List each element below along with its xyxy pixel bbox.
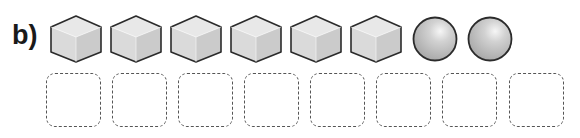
sphere-shape-1 bbox=[412, 16, 458, 62]
cube-shape-3 bbox=[170, 15, 222, 63]
cube-shape-4 bbox=[230, 15, 282, 63]
sphere-icon bbox=[467, 16, 513, 62]
cube-icon bbox=[230, 15, 282, 63]
answer-box-4[interactable] bbox=[244, 73, 299, 127]
cube-icon bbox=[170, 15, 222, 63]
sphere-icon bbox=[412, 16, 458, 62]
cube-shape-2 bbox=[110, 15, 162, 63]
answer-box-1[interactable] bbox=[46, 73, 101, 127]
cube-shape-6 bbox=[350, 15, 402, 63]
cube-icon bbox=[50, 15, 102, 63]
cube-icon bbox=[350, 15, 402, 63]
answer-box-7[interactable] bbox=[442, 73, 497, 127]
exercise-label: b) bbox=[12, 18, 37, 52]
answer-box-5[interactable] bbox=[310, 73, 365, 127]
sphere-shape-2 bbox=[467, 16, 513, 62]
cube-shape-5 bbox=[290, 15, 342, 63]
cube-icon bbox=[110, 15, 162, 63]
answer-box-8[interactable] bbox=[509, 73, 564, 127]
answer-box-6[interactable] bbox=[376, 73, 431, 127]
answer-box-3[interactable] bbox=[178, 73, 233, 127]
cube-icon bbox=[290, 15, 342, 63]
answer-box-2[interactable] bbox=[112, 73, 167, 127]
cube-shape-1 bbox=[50, 15, 102, 63]
